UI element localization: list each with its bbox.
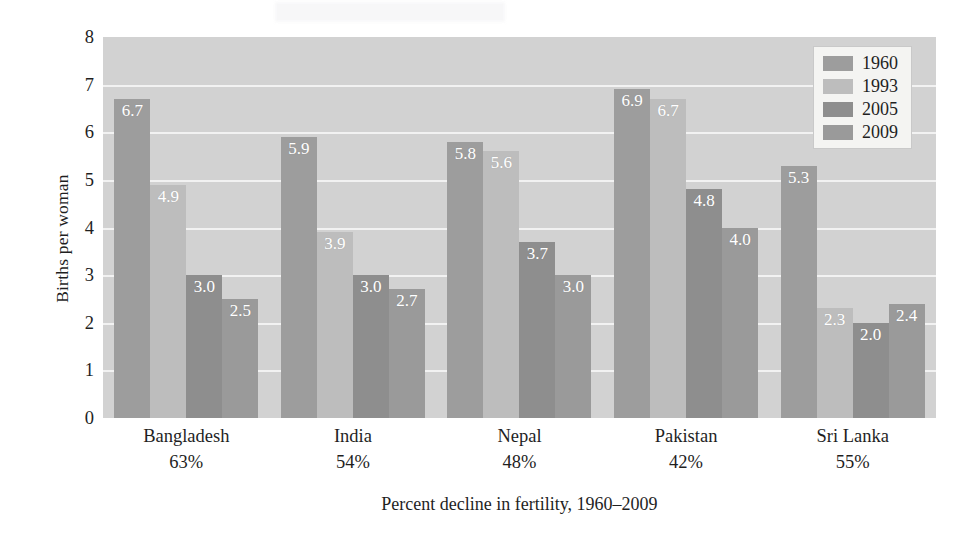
bar: 6.7: [114, 99, 150, 418]
bar-group: 5.85.63.73.0: [436, 37, 603, 418]
bar-group: 5.93.93.02.7: [270, 37, 437, 418]
bar: 5.9: [281, 137, 317, 418]
x-category-percent: 48%: [436, 449, 603, 477]
bar: 3.0: [555, 275, 591, 418]
y-tick-label: 1: [56, 361, 94, 380]
legend-item: 1993: [823, 77, 898, 95]
legend-swatch-1960: [823, 56, 853, 71]
x-category-percent: 42%: [603, 449, 770, 477]
bar-value-label: 5.8: [447, 145, 483, 163]
x-category-name: India: [270, 424, 437, 449]
bar: 6.7: [650, 99, 686, 418]
bar: 3.7: [519, 242, 555, 418]
bar: 3.0: [353, 275, 389, 418]
y-tick-label: 3: [56, 266, 94, 285]
y-axis-tick-labels: 012345678: [56, 37, 94, 418]
bar-value-label: 2.3: [817, 311, 853, 329]
bar-value-label: 5.6: [483, 154, 519, 172]
x-category-name: Nepal: [436, 424, 603, 449]
legend-label-2005: 2005: [862, 100, 898, 118]
bar: 2.7: [389, 289, 425, 418]
y-tick-label: 2: [56, 314, 94, 333]
y-tick-label: 5: [56, 171, 94, 190]
x-category: Bangladesh63%: [103, 424, 270, 477]
bar-value-label: 2.4: [889, 307, 925, 325]
x-category: Sri Lanka55%: [769, 424, 936, 477]
bar-value-label: 4.9: [150, 188, 186, 206]
bar-value-label: 5.3: [781, 169, 817, 187]
bar: 4.9: [150, 185, 186, 418]
bar: 2.0: [853, 323, 889, 418]
bar-value-label: 3.0: [186, 278, 222, 296]
bar-value-label: 2.5: [222, 302, 258, 320]
bar: 3.0: [186, 275, 222, 418]
x-category: Nepal48%: [436, 424, 603, 477]
bar: 5.3: [781, 166, 817, 418]
plot-area: 6.74.93.02.55.93.93.02.75.85.63.73.06.96…: [103, 37, 936, 418]
legend-item: 2009: [823, 123, 898, 141]
bar-value-label: 2.0: [853, 326, 889, 344]
bar-value-label: 5.9: [281, 140, 317, 158]
y-tick-label: 7: [56, 75, 94, 94]
y-tick-label: 6: [56, 123, 94, 142]
x-category-name: Sri Lanka: [769, 424, 936, 449]
x-category-percent: 54%: [270, 449, 437, 477]
bar-value-label: 6.7: [114, 102, 150, 120]
bar-value-label: 4.0: [722, 231, 758, 249]
x-axis-category-labels: Bangladesh63%India54%Nepal48%Pakistan42%…: [103, 424, 936, 477]
bar: 2.3: [817, 308, 853, 418]
y-tick-label: 0: [56, 409, 94, 428]
legend-swatch-1993: [823, 79, 853, 94]
bar: 5.8: [447, 142, 483, 418]
legend: 1960 1993 2005 2009: [813, 46, 912, 149]
y-tick-label: 4: [56, 218, 94, 237]
legend-swatch-2009: [823, 125, 853, 140]
bar-value-label: 6.7: [650, 102, 686, 120]
x-category-name: Pakistan: [603, 424, 770, 449]
x-category: India54%: [270, 424, 437, 477]
scan-artifact: [275, 2, 505, 22]
legend-label-1993: 1993: [862, 77, 898, 95]
legend-label-2009: 2009: [862, 123, 898, 141]
fertility-bar-chart: Births per woman 012345678 6.74.93.02.55…: [0, 0, 965, 542]
bar: 4.8: [686, 189, 722, 418]
bar: 4.0: [722, 228, 758, 419]
bar-value-label: 2.7: [389, 292, 425, 310]
bar: 2.4: [889, 304, 925, 418]
x-axis-title: Percent decline in fertility, 1960–2009: [103, 494, 936, 515]
legend-item: 1960: [823, 54, 898, 72]
bar-value-label: 3.9: [317, 235, 353, 253]
bar: 3.9: [317, 232, 353, 418]
bar-value-label: 3.7: [519, 245, 555, 263]
y-tick-label: 8: [56, 28, 94, 47]
x-category: Pakistan42%: [603, 424, 770, 477]
bar-groups: 6.74.93.02.55.93.93.02.75.85.63.73.06.96…: [103, 37, 936, 418]
legend-item: 2005: [823, 100, 898, 118]
bar-value-label: 4.8: [686, 192, 722, 210]
x-category-name: Bangladesh: [103, 424, 270, 449]
legend-label-1960: 1960: [862, 54, 898, 72]
x-category-percent: 55%: [769, 449, 936, 477]
bar: 6.9: [614, 89, 650, 418]
bar: 5.6: [483, 151, 519, 418]
bar-value-label: 3.0: [555, 278, 591, 296]
bar-value-label: 3.0: [353, 278, 389, 296]
x-category-percent: 63%: [103, 449, 270, 477]
bar: 2.5: [222, 299, 258, 418]
bar-group: 6.74.93.02.5: [103, 37, 270, 418]
bar-group: 6.96.74.84.0: [603, 37, 770, 418]
bar-value-label: 6.9: [614, 92, 650, 110]
legend-swatch-2005: [823, 102, 853, 117]
